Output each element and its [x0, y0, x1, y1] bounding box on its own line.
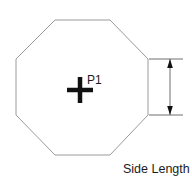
dimension-arrow-bottom	[167, 106, 173, 115]
dimension-label-side-length: Side Length	[123, 162, 190, 176]
diagram-canvas: P1 Side Length	[0, 0, 192, 188]
dimension-arrow-top	[167, 59, 173, 68]
point-label-p1: P1	[87, 73, 102, 87]
octagon-dimension-diagram: P1 Side Length	[0, 0, 192, 188]
